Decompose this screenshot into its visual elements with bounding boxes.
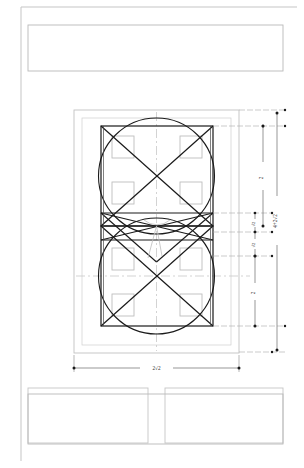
dimension-label-overall-height: 4+2√2 bbox=[272, 214, 278, 228]
dimension-upper-square-height: 2 bbox=[258, 125, 265, 228]
dimension-label-gap-lower: √2 bbox=[251, 242, 256, 248]
dimension-label-lower-square-height: 2 bbox=[250, 291, 256, 294]
center-lines bbox=[76, 112, 250, 351]
main-construction bbox=[74, 110, 250, 353]
small-square bbox=[112, 248, 134, 270]
drawing-sheet: 2√2 4+2√2 2 bbox=[0, 0, 304, 468]
dimension-gap-lower: √2 bbox=[251, 231, 256, 258]
small-square bbox=[112, 182, 134, 204]
footer-center-box bbox=[28, 394, 283, 444]
dimension-tick-points bbox=[262, 109, 286, 353]
upper-square-group bbox=[101, 126, 213, 226]
small-square bbox=[180, 248, 202, 270]
dimension-label-gap-upper: √2 bbox=[251, 221, 256, 227]
footer-right-box bbox=[165, 388, 283, 443]
dimension-label-bottom-width: 2√2 bbox=[152, 365, 160, 371]
technical-drawing-svg: 2√2 4+2√2 2 bbox=[0, 0, 304, 468]
header-title-box bbox=[28, 25, 283, 71]
small-square bbox=[180, 182, 202, 204]
dimension-vertical-group: 4+2√2 2 2 √2 bbox=[213, 109, 286, 353]
lens-cross-lines bbox=[101, 213, 213, 262]
dimension-lower-square-height: 2 bbox=[250, 255, 257, 328]
dimension-label-upper-square-height: 2 bbox=[258, 176, 264, 179]
dimension-bottom-width: 2√2 bbox=[73, 355, 241, 372]
dimension-gap-upper: √2 bbox=[251, 212, 256, 234]
footer-left-box bbox=[28, 388, 148, 443]
